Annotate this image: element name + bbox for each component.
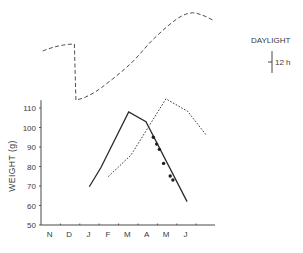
x-tick-label: J — [184, 230, 188, 239]
y-tick-label: 90 — [27, 143, 36, 152]
x-tick-label: J — [87, 230, 91, 239]
x-tick-label: A — [144, 230, 150, 239]
x-tick-label: N — [47, 230, 53, 239]
data-point-marker — [171, 178, 174, 181]
daylight-scale-label: 12 h — [275, 58, 291, 67]
data-point-marker — [158, 148, 161, 151]
x-tick-label: M — [163, 230, 170, 239]
x-tick-label: F — [105, 230, 110, 239]
x-axis: NDJFMAMJ — [41, 224, 215, 240]
y-tick-label: 80 — [27, 163, 36, 172]
daylight-legend: DAYLIGHT 12 h — [251, 36, 291, 73]
x-tick-label: D — [66, 230, 72, 239]
weight-daylight-chart: 5060708090100110 NDJFMAMJ WEIGHT (g) DAY… — [0, 0, 303, 253]
y-tick-label: 60 — [27, 202, 36, 211]
daylight-dashed-line — [43, 13, 213, 100]
daylight-legend-label: DAYLIGHT — [251, 36, 291, 45]
y-tick-label: 70 — [27, 182, 36, 191]
y-tick-label: 50 — [27, 221, 36, 230]
data-point-marker — [152, 136, 155, 139]
weight-series-solid — [89, 112, 187, 202]
dotted-weight-line — [108, 99, 206, 177]
y-tick-label: 110 — [23, 104, 36, 113]
data-point-marker — [155, 142, 158, 145]
weight-series-dotted — [108, 99, 206, 177]
y-axis-title: WEIGHT (g) — [7, 140, 17, 192]
solid-weight-line — [89, 112, 187, 202]
y-tick-label: 100 — [23, 124, 37, 133]
y-axis: 5060708090100110 — [23, 100, 41, 230]
daylight-curve — [43, 13, 213, 100]
data-point-marker — [169, 174, 172, 177]
x-tick-label: M — [124, 230, 131, 239]
data-point-marker — [162, 162, 165, 165]
